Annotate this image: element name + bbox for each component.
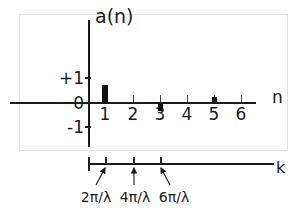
k-label-leader-arrows (0, 0, 308, 212)
k-tick-label-4pi-over-lambda: 4π/λ (115, 190, 155, 204)
figure-stem-plot-an-vs-k: a(n) n k +1 0 -1 1 2 3 4 5 6 2π/λ 4π/λ (0, 0, 308, 212)
k-tick-label-6pi-over-lambda: 6π/λ (154, 190, 194, 204)
k-tick-label-2pi-over-lambda: 2π/λ (76, 190, 116, 204)
